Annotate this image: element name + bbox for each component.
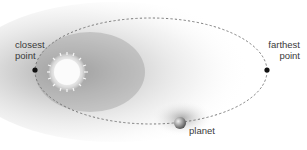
farthest-point-label-line1: farthest bbox=[255, 39, 300, 50]
orbit-diagram-graphic bbox=[0, 0, 307, 150]
planet-icon bbox=[174, 117, 186, 129]
closest-point-label: closest point bbox=[15, 39, 45, 61]
closest-point-label-line2: point bbox=[15, 50, 45, 61]
orbit-diagram: closest point farthest point planet bbox=[0, 0, 307, 150]
farthest-point-marker bbox=[264, 67, 269, 72]
planet-label: planet bbox=[189, 125, 215, 136]
closest-point-marker bbox=[32, 67, 37, 72]
closest-point-label-line1: closest bbox=[15, 39, 45, 50]
farthest-point-label: farthest point bbox=[255, 39, 300, 61]
farthest-point-label-line2: point bbox=[255, 50, 300, 61]
